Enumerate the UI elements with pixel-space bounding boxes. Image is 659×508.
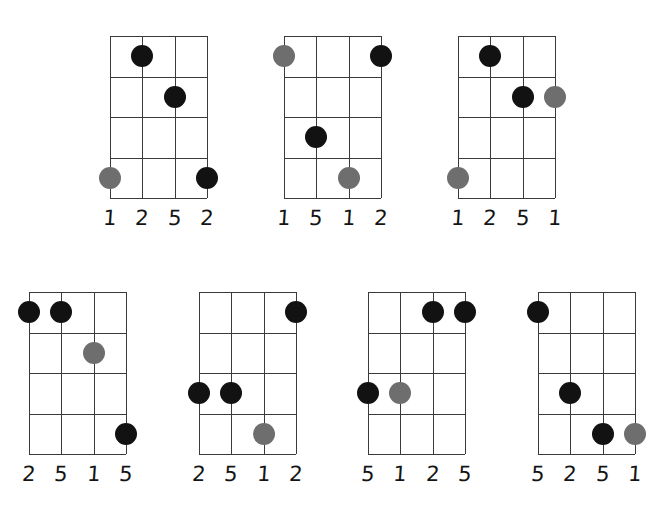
chord-diagram: 5125 (368, 292, 465, 488)
finger-dot (220, 382, 242, 404)
interval-label: 1 (270, 204, 298, 232)
interval-label: 1 (386, 460, 414, 488)
fret-line (284, 198, 381, 199)
interval-label: 5 (112, 460, 140, 488)
interval-label: 2 (367, 204, 395, 232)
chord-diagram: 1252 (110, 36, 207, 232)
fret-line (284, 77, 381, 78)
finger-dot (83, 342, 105, 364)
string-line (231, 292, 232, 454)
fret-line (458, 117, 555, 118)
fretboard-grid (199, 292, 296, 454)
interval-label: 1 (541, 204, 569, 232)
interval-label-row: 2515 (29, 460, 126, 492)
fret-line (368, 292, 465, 293)
fret-line (284, 158, 381, 159)
fret-line (110, 117, 207, 118)
interval-label: 2 (476, 204, 504, 232)
fret-line (29, 373, 126, 374)
interval-label: 5 (354, 460, 382, 488)
fret-line (458, 198, 555, 199)
chord-diagram: 1512 (284, 36, 381, 232)
fret-line (29, 414, 126, 415)
finger-dot (338, 167, 360, 189)
fret-line (538, 333, 635, 334)
finger-dot (357, 382, 379, 404)
interval-label: 5 (524, 460, 552, 488)
finger-dot (305, 126, 327, 148)
fret-line (199, 373, 296, 374)
finger-dot (479, 45, 501, 67)
finger-dot (624, 423, 646, 445)
fret-line (368, 373, 465, 374)
fret-line (110, 77, 207, 78)
string-line (94, 292, 95, 454)
interval-label: 5 (451, 460, 479, 488)
finger-dot (131, 45, 153, 67)
finger-dot (273, 45, 295, 67)
chord-diagram: 2515 (29, 292, 126, 488)
interval-label: 1 (250, 460, 278, 488)
interval-label: 1 (96, 204, 124, 232)
string-line (368, 292, 369, 454)
fret-line (538, 373, 635, 374)
fret-line (110, 198, 207, 199)
interval-label: 2 (128, 204, 156, 232)
fretboard-grid (368, 292, 465, 454)
fretboard-grid (538, 292, 635, 454)
string-line (175, 36, 176, 198)
interval-label: 2 (419, 460, 447, 488)
finger-dot (389, 382, 411, 404)
fret-line (110, 158, 207, 159)
interval-label: 5 (302, 204, 330, 232)
finger-dot (544, 86, 566, 108)
interval-label: 1 (444, 204, 472, 232)
finger-dot (50, 301, 72, 323)
fret-line (458, 158, 555, 159)
fretboard-grid (29, 292, 126, 454)
fret-line (29, 292, 126, 293)
finger-dot (99, 167, 121, 189)
interval-label-row: 1512 (284, 204, 381, 236)
fretboard-grid (110, 36, 207, 198)
fretboard-grid (458, 36, 555, 198)
string-line (316, 36, 317, 198)
string-line (400, 292, 401, 454)
interval-label: 5 (161, 204, 189, 232)
fret-line (199, 333, 296, 334)
fretboard-grid (284, 36, 381, 198)
fret-line (29, 454, 126, 455)
interval-label: 5 (589, 460, 617, 488)
finger-dot (18, 301, 40, 323)
fret-line (538, 292, 635, 293)
fret-line (368, 414, 465, 415)
fret-line (368, 454, 465, 455)
fret-line (29, 333, 126, 334)
interval-label: 2 (193, 204, 221, 232)
interval-label-row: 5125 (368, 460, 465, 492)
interval-label-row: 5251 (538, 460, 635, 492)
fret-line (458, 77, 555, 78)
interval-label: 2 (282, 460, 310, 488)
fret-line (199, 414, 296, 415)
finger-dot (115, 423, 137, 445)
string-line (555, 36, 556, 198)
interval-label: 5 (217, 460, 245, 488)
interval-label: 1 (335, 204, 363, 232)
interval-label: 5 (509, 204, 537, 232)
chord-diagram: 1251 (458, 36, 555, 232)
fret-line (458, 36, 555, 37)
string-line (570, 292, 571, 454)
string-line (199, 292, 200, 454)
interval-label: 1 (80, 460, 108, 488)
finger-dot (164, 86, 186, 108)
finger-dot (512, 86, 534, 108)
interval-label-row: 1251 (458, 204, 555, 236)
finger-dot (447, 167, 469, 189)
interval-label: 2 (15, 460, 43, 488)
interval-label-row: 2512 (199, 460, 296, 492)
string-line (523, 36, 524, 198)
interval-label: 1 (621, 460, 649, 488)
interval-label: 5 (47, 460, 75, 488)
finger-dot (454, 301, 476, 323)
